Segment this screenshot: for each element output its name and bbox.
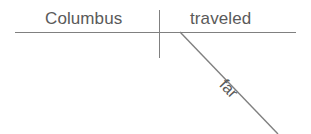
subject-label: Columbus bbox=[45, 10, 122, 27]
verb-label: traveled bbox=[190, 10, 251, 27]
sentence-diagram: Columbus traveled far bbox=[0, 0, 311, 134]
